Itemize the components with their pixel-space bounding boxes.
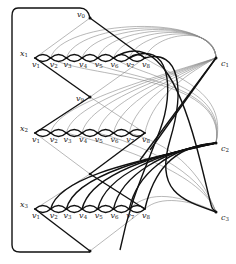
vertex-node bbox=[50, 132, 52, 134]
vertex-node bbox=[97, 208, 99, 210]
vertex-node bbox=[128, 208, 130, 210]
connector-label-v0: v0 bbox=[77, 11, 85, 20]
vertex-node bbox=[34, 57, 36, 59]
chain-edge-upper bbox=[98, 206, 114, 210]
connector-node-mid bbox=[89, 173, 92, 176]
vertex-label: v5 bbox=[95, 61, 103, 70]
chain-edge-upper bbox=[51, 130, 67, 134]
vertex-label: v4 bbox=[79, 212, 87, 221]
vertex-node bbox=[81, 57, 83, 59]
vertex-label: v4 bbox=[79, 61, 87, 70]
vertex-node bbox=[50, 57, 52, 59]
vertex-node bbox=[81, 132, 83, 134]
clause-node-c1 bbox=[215, 57, 218, 60]
graph-diagram bbox=[0, 0, 236, 264]
clause-label-c3: c3 bbox=[221, 214, 229, 223]
vertex-label: v8 bbox=[142, 212, 150, 221]
edge-v0-x1-v1 bbox=[35, 18, 90, 58]
chain-edge-upper bbox=[82, 55, 98, 59]
vertex-node bbox=[97, 132, 99, 134]
vertex-node bbox=[128, 57, 130, 59]
vertex-label: v8 bbox=[142, 61, 150, 70]
edge-x3-c3 bbox=[129, 196, 216, 212]
chain-edge-upper bbox=[66, 130, 82, 134]
vertex-label: v7 bbox=[126, 212, 134, 221]
connector-node-bottom bbox=[89, 250, 92, 253]
edge-v0-x1-v8 bbox=[90, 18, 145, 58]
thick-edge-x3-c2 bbox=[66, 143, 216, 209]
vertex-label: v3 bbox=[63, 136, 71, 145]
chain-edge-upper bbox=[98, 55, 114, 59]
vertex-node bbox=[65, 132, 67, 134]
thick-edge-x1-c3 bbox=[145, 57, 216, 212]
variable-label-x2: x2 bbox=[20, 125, 28, 134]
chain-edge-upper bbox=[35, 55, 51, 59]
vertex-node bbox=[144, 208, 146, 210]
vertex-node bbox=[81, 208, 83, 210]
variable-label-x1: x1 bbox=[20, 50, 28, 59]
vertex-label: v1 bbox=[32, 212, 40, 221]
connector-node-v0 bbox=[89, 17, 92, 20]
vertex-node bbox=[34, 132, 36, 134]
vertex-node bbox=[65, 57, 67, 59]
connector-node-v9 bbox=[89, 96, 92, 99]
vertex-node bbox=[34, 208, 36, 210]
vertex-label: v6 bbox=[111, 136, 119, 145]
vertex-label: v5 bbox=[95, 212, 103, 221]
vertex-label: v7 bbox=[126, 61, 134, 70]
vertex-node bbox=[112, 57, 114, 59]
vertex-label: v6 bbox=[111, 61, 119, 70]
chain-edge-upper bbox=[114, 206, 130, 210]
chain-edge-upper bbox=[129, 130, 145, 134]
chain-edge-upper bbox=[66, 55, 82, 59]
vertex-node bbox=[97, 57, 99, 59]
chain-edge-upper bbox=[82, 130, 98, 134]
clause-node-c3 bbox=[215, 211, 218, 214]
variable-label-x3: x3 bbox=[20, 201, 28, 210]
vertex-label: v5 bbox=[95, 136, 103, 145]
chain-edge-upper bbox=[82, 206, 98, 210]
chain-edge-upper bbox=[35, 206, 51, 210]
clause-label-c1: c1 bbox=[221, 60, 229, 69]
vertex-node bbox=[112, 132, 114, 134]
vertex-node bbox=[128, 132, 130, 134]
vertex-label: v3 bbox=[63, 212, 71, 221]
vertex-node bbox=[112, 208, 114, 210]
vertex-label: v2 bbox=[50, 61, 58, 70]
vertex-label: v2 bbox=[50, 136, 58, 145]
edge-x1-c1 bbox=[145, 35, 216, 58]
vertex-label: v7 bbox=[126, 136, 134, 145]
connector-label-v9: v9 bbox=[76, 95, 84, 104]
chain-edge-upper bbox=[51, 55, 67, 59]
vertex-label: v2 bbox=[50, 212, 58, 221]
vertex-label: v6 bbox=[111, 212, 119, 221]
vertex-label: v8 bbox=[142, 136, 150, 145]
vertex-label: v4 bbox=[79, 136, 87, 145]
edge-x3-c3 bbox=[145, 201, 216, 212]
vertex-label: v3 bbox=[63, 61, 71, 70]
edge-x1-c1 bbox=[114, 32, 217, 58]
chain-edge-upper bbox=[98, 130, 114, 134]
vertex-node bbox=[144, 57, 146, 59]
chain-edge-upper bbox=[66, 206, 82, 210]
vertex-node bbox=[144, 132, 146, 134]
chain-edge-upper bbox=[114, 130, 130, 134]
clause-label-c2: c2 bbox=[221, 145, 229, 154]
vertex-label: v1 bbox=[32, 136, 40, 145]
vertex-label: v1 bbox=[32, 61, 40, 70]
vertex-node bbox=[50, 208, 52, 210]
vertex-node bbox=[65, 208, 67, 210]
clause-node-c2 bbox=[215, 142, 218, 145]
chain-edge-upper bbox=[51, 206, 67, 210]
